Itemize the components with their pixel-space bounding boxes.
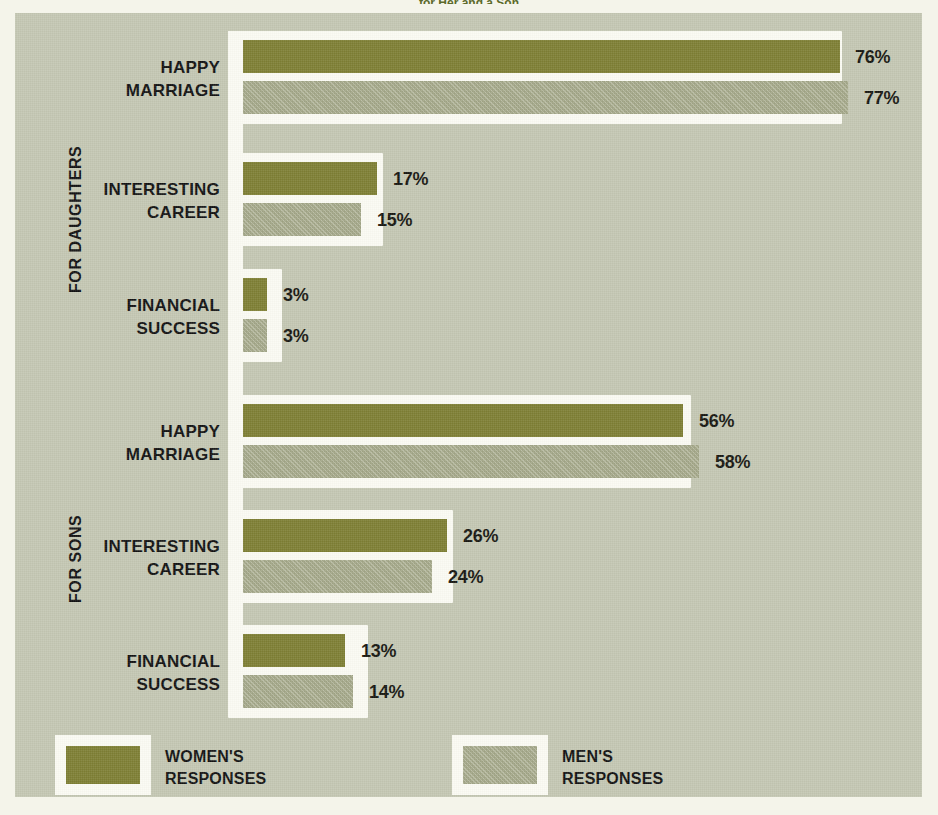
category-label-line1: HAPPY — [0, 420, 220, 443]
category-label: HAPPY MARRIAGE — [0, 56, 220, 103]
bar-men[interactable] — [243, 675, 353, 708]
bar-men[interactable] — [243, 319, 267, 352]
category-label-line2: MARRIAGE — [0, 443, 220, 466]
value-label-women: 26% — [463, 526, 498, 547]
category-label: INTERESTING CAREER — [0, 535, 220, 582]
category-label-line1: FINANCIAL — [0, 650, 220, 673]
category-label: HAPPY MARRIAGE — [0, 420, 220, 467]
value-label-men: 24% — [448, 567, 483, 588]
bar-men[interactable] — [243, 203, 361, 236]
bar-men[interactable] — [243, 560, 432, 593]
value-label-men: 58% — [715, 452, 750, 473]
bar-women[interactable] — [243, 40, 840, 73]
category-label-line2: CAREER — [0, 558, 220, 581]
value-label-men: 15% — [377, 210, 412, 231]
value-label-women: 17% — [393, 169, 428, 190]
value-label-men: 3% — [283, 326, 309, 347]
category-label-line2: MARRIAGE — [0, 79, 220, 102]
value-label-men: 14% — [369, 682, 404, 703]
category-label-line1: FINANCIAL — [0, 294, 220, 317]
category-label-line1: INTERESTING — [0, 178, 220, 201]
category-label: FINANCIAL SUCCESS — [0, 650, 220, 697]
category-label: INTERESTING CAREER — [0, 178, 220, 225]
bar-women[interactable] — [243, 278, 267, 311]
category-label-line1: HAPPY — [0, 56, 220, 79]
bar-women[interactable] — [243, 162, 377, 195]
legend-swatch-women — [66, 746, 140, 784]
bar-men[interactable] — [243, 445, 699, 478]
value-label-men: 77% — [864, 88, 899, 109]
value-label-women: 3% — [283, 285, 309, 306]
category-label-line2: SUCCESS — [0, 317, 220, 340]
category-label-line2: CAREER — [0, 201, 220, 224]
category-label: FINANCIAL SUCCESS — [0, 294, 220, 341]
bar-women[interactable] — [243, 519, 447, 552]
category-label-line2: SUCCESS — [0, 673, 220, 696]
value-label-women: 76% — [855, 47, 890, 68]
bar-men[interactable] — [243, 81, 848, 114]
chart-title: for Her and a Son — [0, 0, 938, 4]
legend-label-men: MEN'S RESPONSES — [562, 746, 663, 791]
chart-panel: FOR DAUGHTERS FOR SONS 76% 77% HAPPY MAR… — [15, 13, 922, 797]
bar-women[interactable] — [243, 404, 683, 437]
legend-swatch-men — [463, 746, 537, 784]
chart-page: for Her and a Son FOR DAUGHTERS FOR SONS… — [0, 0, 938, 815]
plot-area: FOR DAUGHTERS FOR SONS 76% 77% HAPPY MAR… — [15, 13, 922, 797]
bar-women[interactable] — [243, 634, 345, 667]
legend-label-women: WOMEN'S RESPONSES — [165, 746, 266, 791]
value-label-women: 56% — [699, 411, 734, 432]
category-label-line1: INTERESTING — [0, 535, 220, 558]
value-label-women: 13% — [361, 641, 396, 662]
